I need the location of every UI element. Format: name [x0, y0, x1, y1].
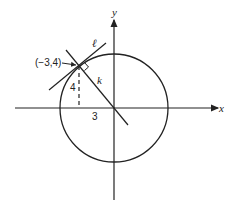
horizontal-leg-label: 3 — [92, 111, 98, 122]
line-k-label: k — [97, 74, 103, 86]
point-label: (−3,4) — [35, 57, 61, 68]
tangent-label: ℓ — [92, 37, 97, 49]
coordinate-diagram: (−3,4) ℓ k 4 3 x y — [0, 0, 235, 209]
x-axis-label: x — [218, 102, 224, 114]
right-angle-marker — [85, 63, 89, 71]
vertical-leg-label: 4 — [70, 82, 76, 93]
y-axis-label: y — [111, 6, 117, 18]
point-pointer — [62, 63, 76, 65]
